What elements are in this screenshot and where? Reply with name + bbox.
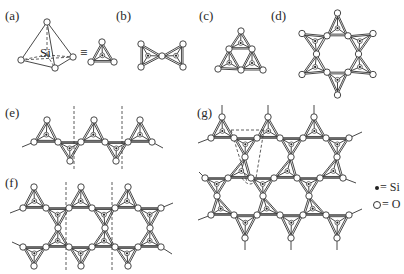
oxygen-atom	[226, 46, 232, 52]
silicon-atom	[125, 199, 130, 204]
oxygen-atom	[31, 139, 37, 145]
oxygen-atom	[231, 212, 237, 218]
oxygen-atom	[277, 212, 283, 218]
silicon-atom	[239, 169, 244, 174]
silicon-atom	[44, 132, 49, 137]
panel-label-d: (d)	[271, 9, 286, 22]
oxygen-atom	[208, 135, 214, 141]
oxygen-atom	[288, 235, 294, 241]
oxygen-atom	[324, 69, 330, 75]
equivalence-symbol: ≡	[80, 46, 87, 59]
oxygen-atom	[214, 193, 220, 199]
silicate-diagram-canvas	[0, 0, 404, 274]
oxygen-atom	[135, 205, 141, 211]
oxygen-atom	[66, 244, 72, 250]
oxygen-atom	[158, 205, 164, 211]
oxygen-atom	[265, 114, 271, 120]
oxygen-atom	[215, 66, 221, 72]
silicon-atom	[102, 238, 107, 243]
oxygen-atom	[159, 53, 165, 59]
oxygen-atom	[112, 244, 118, 250]
oxygen-atom	[254, 135, 260, 141]
legend-si: = Si	[375, 181, 400, 193]
oxygen-atom	[248, 175, 254, 181]
oxygen-atom	[31, 263, 37, 269]
oxygen-atom	[324, 33, 330, 39]
silicon-atom	[114, 146, 119, 151]
atoms	[18, 10, 376, 269]
panel-label-c: (c)	[199, 9, 213, 22]
silicon-atom	[335, 26, 340, 31]
silicon-atom	[312, 129, 317, 134]
oxygen-atom	[202, 175, 208, 181]
oxygen-atom	[55, 225, 61, 231]
oxygen-atom	[334, 10, 340, 16]
silicon-atom	[146, 53, 151, 58]
silicate-structures-figure: (a) (b) (c) (d) (e) (f) (g) Si ≡ = Si = …	[0, 0, 404, 274]
legend-si-text: = Si	[380, 180, 400, 194]
oxygen-atom	[311, 114, 317, 120]
panel-label-a: (a)	[5, 9, 19, 22]
silicon-atom	[238, 41, 243, 46]
oxygen-atom	[78, 263, 84, 269]
silicon-atom	[214, 182, 219, 187]
oxygen-atom	[20, 205, 26, 211]
oxygen-atom	[317, 175, 323, 181]
oxygen-atom	[242, 235, 248, 241]
silicon-atom	[357, 39, 362, 44]
silicon-atom	[55, 238, 60, 243]
oxygen-atom	[66, 205, 72, 211]
o-circle-icon	[373, 201, 381, 209]
silicon-atom	[78, 199, 83, 204]
panel-label-g: (g)	[197, 106, 212, 119]
oxygen-atom	[288, 154, 294, 160]
oxygen-atom	[91, 117, 97, 123]
silicon-atom	[147, 238, 152, 243]
silicon-atom	[264, 206, 269, 211]
oxygen-atom	[334, 235, 340, 241]
silicon-atom	[243, 220, 248, 225]
panel-label-e: (e)	[5, 106, 19, 119]
oxygen-atom	[208, 212, 214, 218]
oxygen-atom	[138, 41, 144, 47]
oxygen-atom	[31, 184, 37, 190]
oxygen-atom	[70, 54, 76, 60]
oxygen-atom	[345, 33, 351, 39]
oxygen-atom	[299, 71, 305, 77]
oxygen-atom	[249, 46, 255, 52]
oxygen-atom	[238, 67, 244, 73]
oxygen-atom	[112, 205, 118, 211]
oxygen-atom	[147, 225, 153, 231]
oxygen-atom	[294, 175, 300, 181]
oxygen-atom	[135, 244, 141, 250]
oxygen-atom	[113, 158, 119, 164]
oxygen-atom	[300, 135, 306, 141]
oxygen-atom	[370, 30, 376, 36]
silicon-atom	[313, 64, 318, 69]
silicon-atom	[227, 60, 232, 65]
legend-o-text: = O	[382, 197, 400, 211]
oxygen-atom	[219, 114, 225, 120]
oxygen-atom	[225, 175, 231, 181]
oxygen-atom	[334, 154, 340, 160]
oxygen-atom	[180, 41, 186, 47]
oxygen-atom	[299, 30, 305, 36]
oxygen-atom	[102, 225, 108, 231]
silicon-atom	[250, 61, 255, 66]
oxygen-atom	[44, 117, 50, 123]
silicon-atom	[218, 206, 223, 211]
oxygen-atom	[370, 71, 376, 77]
oxygen-atom	[334, 92, 340, 98]
oxygen-atom	[111, 59, 117, 65]
oxygen-atom	[346, 135, 352, 141]
oxygen-atom	[43, 244, 49, 250]
oxygen-atom	[78, 184, 84, 190]
silicon-atom	[220, 129, 225, 134]
oxygen-atom	[271, 175, 277, 181]
silicon-atom	[67, 146, 72, 151]
silicon-atom	[335, 142, 340, 147]
silicon-atom	[260, 182, 265, 187]
silicon-atom	[266, 129, 271, 134]
silicon-atom	[100, 53, 105, 58]
oxygen-atom	[102, 139, 108, 145]
